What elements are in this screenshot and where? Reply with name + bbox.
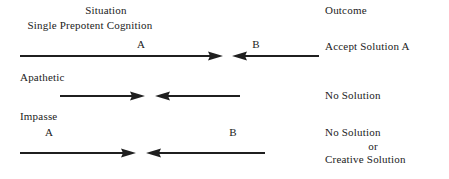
arrow-label-row1-b: B: [245, 38, 267, 50]
figure-canvas: Situation Outcome Single Prepotent Cogni…: [0, 0, 449, 179]
situation-label-impasse: Impasse: [20, 110, 57, 122]
arrow-row2-rightward: [60, 90, 145, 102]
arrow-row1-rightward: [20, 50, 223, 62]
situation-label-single-prepotent-cognition: Single Prepotent Cognition: [10, 19, 170, 31]
column-header-situation: Situation: [48, 4, 164, 16]
arrow-row2-leftward: [155, 90, 240, 102]
situation-label-apathetic: Apathetic: [20, 71, 65, 83]
arrow-label-row3-b: B: [222, 126, 244, 138]
outcome-label-row3-line2: or: [325, 140, 421, 152]
outcome-label-row3-line3: Creative Solution: [325, 153, 406, 165]
arrow-row3-leftward: [146, 147, 265, 159]
arrow-label-row1-a: A: [130, 38, 152, 50]
arrow-label-row3-a: A: [38, 126, 60, 138]
outcome-label-row3-line1: No Solution: [325, 126, 381, 138]
outcome-label-row2-line1: No Solution: [325, 89, 381, 101]
arrow-row1-leftward: [232, 50, 319, 62]
outcome-label-row1-line1: Accept Solution A: [325, 40, 410, 52]
arrow-row3-rightward: [20, 147, 136, 159]
column-header-outcome: Outcome: [325, 4, 367, 16]
